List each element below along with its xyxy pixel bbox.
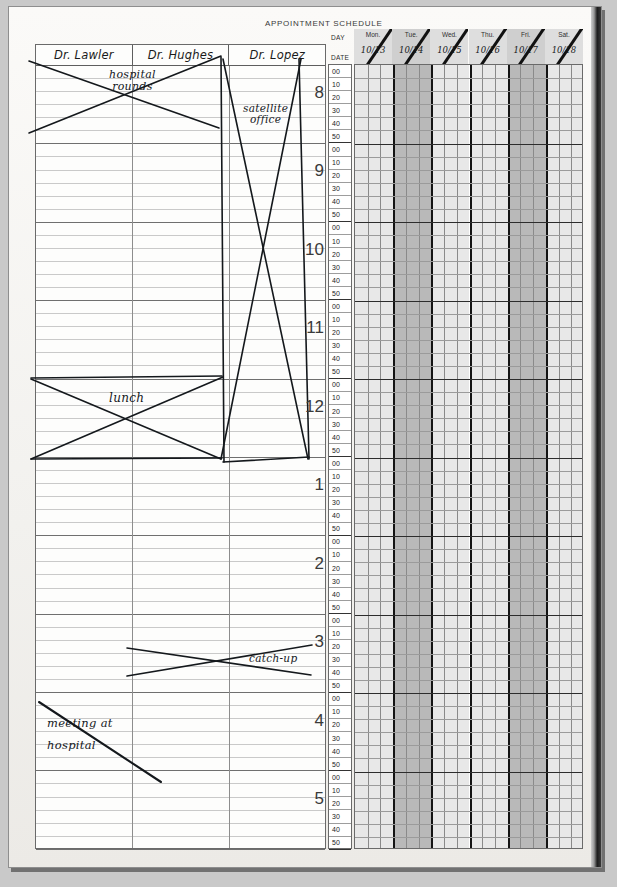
appointment-row[interactable] — [36, 66, 325, 79]
grid-row-line — [355, 562, 582, 563]
appointment-row[interactable] — [36, 562, 325, 575]
grid-row-line — [355, 183, 582, 184]
minute-cell: 50 — [329, 758, 351, 771]
appointment-row[interactable] — [36, 184, 325, 197]
appointment-row[interactable] — [36, 784, 325, 797]
appointment-row[interactable] — [36, 275, 325, 288]
appointment-row[interactable] — [36, 353, 325, 366]
grid-row-line — [355, 314, 582, 315]
appointment-row[interactable] — [36, 393, 325, 406]
appointment-row[interactable] — [36, 536, 325, 549]
appointment-row[interactable] — [36, 197, 325, 210]
minute-cell: 40 — [329, 588, 351, 601]
appointment-row[interactable] — [36, 510, 325, 523]
grid-row-line — [355, 222, 582, 223]
minute-cell: 50 — [329, 287, 351, 300]
minute-cell: 50 — [329, 130, 351, 143]
grid-row-line — [355, 615, 582, 616]
grid-body[interactable] — [354, 64, 583, 849]
grid-row-line — [355, 248, 582, 249]
grid-row-line — [355, 654, 582, 655]
appointment-row[interactable] — [36, 445, 325, 458]
appointment-row[interactable] — [36, 693, 325, 706]
grid-row-line — [355, 497, 582, 498]
appointment-time-grid[interactable]: Mon.10/13Tue.10/14Wed.10/15Thu.10/16Fri.… — [354, 64, 583, 849]
grid-row-line — [355, 91, 582, 92]
hour-label: 2 — [315, 554, 324, 574]
appointment-row[interactable] — [36, 471, 325, 484]
appointment-row[interactable] — [36, 758, 325, 771]
minute-cell: 10 — [329, 313, 351, 326]
appointment-row[interactable] — [36, 262, 325, 275]
grid-row-line — [355, 130, 582, 131]
appointment-row[interactable] — [36, 458, 325, 471]
minute-cell: 20 — [329, 719, 351, 732]
appointment-row[interactable] — [36, 171, 325, 184]
annotation-meeting-at-hospital: meeting at hospital — [47, 712, 113, 757]
appointment-row[interactable] — [36, 288, 325, 301]
appointment-row[interactable] — [36, 771, 325, 784]
appointment-row[interactable] — [36, 824, 325, 837]
minute-cell: 00 — [329, 65, 351, 78]
appointment-row[interactable] — [36, 798, 325, 811]
appointment-row[interactable] — [36, 131, 325, 144]
appointment-row[interactable] — [36, 366, 325, 379]
appointment-row[interactable] — [36, 549, 325, 562]
appointment-row[interactable] — [36, 223, 325, 236]
minute-cell: 50 — [329, 523, 351, 536]
appointment-row[interactable] — [36, 667, 325, 680]
provider-header-lawler: Dr. Lawler — [36, 45, 132, 65]
appointment-row[interactable] — [36, 406, 325, 419]
appointment-row[interactable] — [36, 523, 325, 536]
minute-cell: 20 — [329, 484, 351, 497]
date-label: DATE — [331, 54, 349, 61]
appointment-row[interactable] — [36, 314, 325, 327]
day-header-cell: Sat.10/18 — [545, 29, 583, 64]
annotation-satellite-office: satellite office — [243, 103, 288, 125]
appointment-row[interactable] — [36, 575, 325, 588]
appointment-row[interactable] — [36, 301, 325, 314]
appointment-row[interactable] — [36, 811, 325, 824]
column-divider-1 — [132, 66, 133, 848]
day-header-cell: Fri.10/17 — [507, 29, 545, 64]
minute-cell: 40 — [329, 431, 351, 444]
minute-cell: 30 — [329, 810, 351, 823]
appointment-row[interactable] — [36, 380, 325, 393]
appointment-row[interactable] — [36, 484, 325, 497]
minute-cell: 30 — [329, 732, 351, 745]
appointment-row[interactable] — [36, 79, 325, 92]
appointment-row[interactable] — [36, 340, 325, 353]
appointment-row[interactable] — [36, 628, 325, 641]
minute-cell: 00 — [329, 693, 351, 706]
appointment-row[interactable] — [36, 419, 325, 432]
appointment-row[interactable] — [36, 432, 325, 445]
day-date: 10/15 — [430, 45, 468, 55]
grid-row-line — [355, 144, 582, 145]
appointment-row[interactable] — [36, 615, 325, 628]
day-label: DAY — [331, 34, 345, 41]
minute-cell: 40 — [329, 353, 351, 366]
minute-cell: 00 — [329, 222, 351, 235]
appointment-row[interactable] — [36, 249, 325, 262]
grid-row-line — [355, 719, 582, 720]
day-date: 10/18 — [545, 45, 583, 55]
hour-label: 4 — [315, 711, 324, 731]
grid-row-line — [355, 680, 582, 681]
appointment-row[interactable] — [36, 497, 325, 510]
appointment-row[interactable] — [36, 602, 325, 615]
minute-cell: 50 — [329, 209, 351, 222]
minute-cell: 50 — [329, 680, 351, 693]
appointment-row[interactable] — [36, 680, 325, 693]
appointment-row[interactable] — [36, 236, 325, 249]
minute-cell: 50 — [329, 366, 351, 379]
appointment-row[interactable] — [36, 157, 325, 170]
day-date: 10/13 — [354, 45, 392, 55]
appointment-row[interactable] — [36, 589, 325, 602]
grid-row-line — [355, 444, 582, 445]
appointment-row[interactable] — [36, 327, 325, 340]
hour-label: 5 — [315, 789, 324, 809]
appointment-row[interactable] — [36, 144, 325, 157]
appointment-row[interactable] — [36, 837, 325, 850]
minute-cell: 30 — [329, 654, 351, 667]
appointment-row[interactable] — [36, 210, 325, 223]
